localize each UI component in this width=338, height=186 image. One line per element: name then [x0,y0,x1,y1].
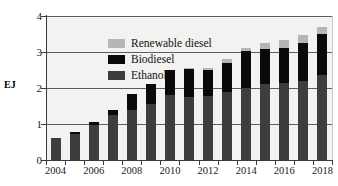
bar-segment-ethanol [70,134,80,160]
x-tick-label: 2006 [83,166,104,177]
bar-2006 [89,122,99,160]
x-tick-label: 2012 [198,166,219,177]
bar-2007 [108,110,118,160]
legend-item: Ethanol [108,70,212,81]
legend-swatch-icon [108,39,125,48]
bar-segment-renewable-diesel [317,27,327,34]
x-axis-line [46,160,333,161]
legend-label: Ethanol [131,70,167,82]
legend-label: Renewable diesel [131,38,212,50]
bar-segment-ethanol [165,95,175,160]
chart-legend: Renewable dieselBiodieselEthanol [108,38,212,86]
y-tick-label: 2 [37,83,43,94]
y-axis-title: EJ [4,80,16,90]
bar-2016 [279,40,289,160]
stacked-bar-chart: Renewable dieselBiodieselEthanol EJ 0123… [0,0,338,186]
x-tick-label: 2016 [274,166,295,177]
bar-segment-biodiesel [279,48,289,83]
bar-segment-biodiesel [260,49,270,84]
bar-segment-ethanol [260,84,270,160]
bar-segment-biodiesel [241,51,251,88]
y-tick-label: 1 [37,119,43,130]
bar-segment-biodiesel [127,94,137,111]
x-tick-label: 2010 [159,166,180,177]
x-tick-label: 2018 [312,166,333,177]
legend-swatch-icon [108,71,125,80]
bar-2013 [222,59,232,161]
y-axis-line [46,15,47,161]
bar-segment-ethanol [241,88,251,160]
bar-segment-biodiesel [298,43,308,81]
bar-segment-ethanol [279,83,289,160]
legend-item: Biodiesel [108,54,212,65]
bar-2005 [70,132,80,160]
bar-2009 [146,84,156,160]
legend-item: Renewable diesel [108,38,212,49]
bar-segment-ethanol [127,110,137,160]
bar-2018 [317,27,327,160]
legend-swatch-icon [108,55,125,64]
legend-label: Biodiesel [131,54,174,66]
y-tick-label: 4 [37,11,43,22]
bar-segment-ethanol [184,97,194,160]
y-tick-label: 0 [37,155,43,166]
y-tick-label: 3 [37,47,43,58]
bar-segment-ethanol [89,125,99,160]
bar-segment-ethanol [317,75,327,160]
bar-segment-biodiesel [222,63,232,93]
bar-2017 [298,35,308,160]
plot-area: Renewable dieselBiodieselEthanol [46,16,333,160]
bar-segment-ethanol [298,81,308,160]
gridline [46,16,332,17]
bar-segment-renewable-diesel [298,35,308,43]
bar-segment-ethanol [146,104,156,160]
bar-segment-biodiesel [146,84,156,103]
bar-2004 [51,138,61,160]
bar-segment-renewable-diesel [279,40,289,48]
bar-2014 [241,48,251,160]
bar-segment-biodiesel [317,34,327,75]
bar-segment-ethanol [203,96,213,160]
bar-2015 [260,43,270,160]
bar-2008 [127,94,137,160]
bar-segment-ethanol [222,92,232,160]
bar-segment-ethanol [51,138,61,160]
x-tick-label: 2004 [45,166,66,177]
x-tick-label: 2014 [236,166,257,177]
x-tick-label: 2008 [121,166,142,177]
bar-segment-ethanol [108,115,118,160]
